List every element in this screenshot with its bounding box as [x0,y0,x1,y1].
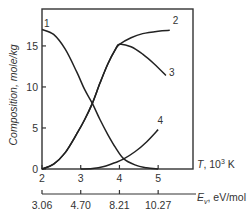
secondary-x-tick-label: 10.27 [145,199,171,211]
secondary-x-tick-label: 3.06 [32,199,53,211]
curve-label-3: 3 [169,67,175,78]
composition-chart: 051015 2345 3.064.708.2110.27 1234 Compo… [0,0,248,223]
x-tick-label: 2 [39,172,45,184]
y-axis-label: Composition, mole/kg [7,44,19,145]
x-tick-label: 3 [78,172,84,184]
x-tick-label: 4 [117,172,123,184]
x-tick-label: 5 [155,172,161,184]
secondary-x-tick-label: 8.21 [109,199,130,211]
plot-frame [42,9,193,169]
curve-label-4: 4 [157,115,163,126]
curve-label-1: 1 [44,18,50,29]
data-curves [42,30,170,169]
y-tick-label: 15 [26,40,38,52]
x-axis-label: T, 103 K [197,158,235,170]
secondary-x-axis-label: Ev, eV/mol [197,191,246,205]
secondary-x-tick-label: 4.70 [70,199,91,211]
curve-label-2: 2 [173,15,179,26]
curve-3 [42,44,166,169]
curve-4 [81,130,158,169]
y-axis-ticks: 051015 [26,40,46,175]
y-tick-label: 10 [26,81,38,93]
y-tick-label: 0 [32,163,38,175]
y-tick-label: 5 [32,122,38,134]
curve-2 [42,30,170,169]
secondary-x-axis: 3.064.708.2110.27 [32,190,196,211]
